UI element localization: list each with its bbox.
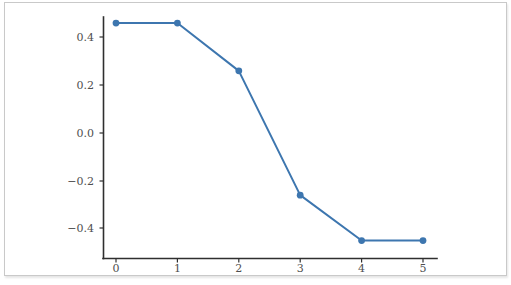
series-line-path — [116, 23, 423, 240]
axes-spines — [103, 17, 437, 259]
x-axis-tick-labels: 0 1 2 3 4 5 — [113, 262, 427, 275]
x-tick-label-0: 0 — [113, 262, 120, 275]
x-tick-label-4: 4 — [358, 262, 365, 275]
y-axis-tick-labels: 0.4 0.2 0.0 −0.2 −0.4 — [67, 31, 94, 235]
data-point-marker — [297, 192, 304, 199]
x-tick-label-5: 5 — [420, 262, 427, 275]
x-tick-label-3: 3 — [297, 262, 304, 275]
y-tick-label-2: 0.0 — [77, 127, 95, 140]
data-point-marker — [420, 237, 427, 244]
data-point-marker — [358, 237, 365, 244]
line-chart: 0.4 0.2 0.0 −0.2 −0.4 0 1 2 3 — [0, 0, 511, 285]
x-tick-label-2: 2 — [235, 262, 242, 275]
data-point-marker — [235, 67, 242, 74]
y-tick-label-0: 0.4 — [77, 31, 95, 44]
data-series-group — [113, 20, 427, 244]
figure-container: 0.4 0.2 0.0 −0.2 −0.4 0 1 2 3 — [0, 0, 511, 285]
data-point-marker — [113, 20, 120, 27]
y-tick-label-1: 0.2 — [77, 79, 95, 92]
x-tick-label-1: 1 — [174, 262, 181, 275]
y-tick-label-3: −0.2 — [67, 175, 94, 188]
y-tick-label-4: −0.4 — [67, 222, 94, 235]
plot-area: 0.4 0.2 0.0 −0.2 −0.4 0 1 2 3 — [0, 0, 511, 285]
data-point-marker — [174, 20, 181, 27]
